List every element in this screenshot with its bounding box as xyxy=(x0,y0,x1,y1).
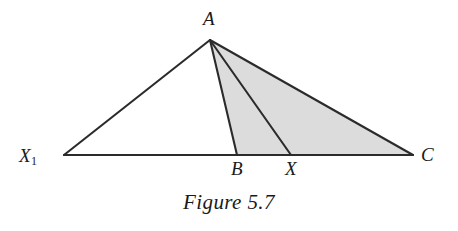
vertex-label-c: C xyxy=(421,145,434,164)
segment-x1-a xyxy=(64,40,210,155)
vertex-label-b: B xyxy=(231,159,243,178)
vertex-label-x: X xyxy=(285,159,297,178)
vertex-label-x1: X1 xyxy=(19,146,37,167)
vertex-label-x1-base: X xyxy=(19,145,31,166)
figure-caption: Figure 5.7 xyxy=(0,190,458,215)
vertex-label-x1-subscript: 1 xyxy=(31,154,38,168)
figure-container: A X1 B X C Figure 5.7 xyxy=(0,0,458,231)
vertex-label-a: A xyxy=(203,9,215,28)
